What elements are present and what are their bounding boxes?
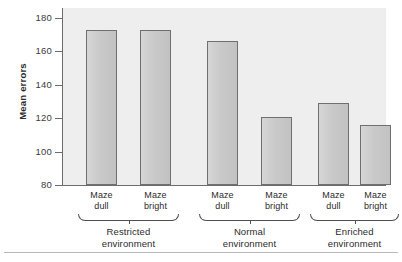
bar — [207, 41, 238, 185]
y-tick-label: 160 — [12, 45, 52, 56]
y-tick-label: 120 — [12, 112, 52, 123]
y-tick-label: 80 — [12, 179, 52, 190]
y-tick-mark — [55, 18, 63, 19]
bottom-divider — [4, 252, 398, 253]
bar-label-line1: Maze — [322, 190, 344, 200]
bar-label-line1: Maze — [90, 190, 112, 200]
x-axis-line — [62, 185, 386, 186]
bar-tick-label: Mazebright — [251, 190, 302, 212]
y-tick-mark — [55, 118, 63, 119]
bar-label-line1: Maze — [265, 190, 287, 200]
group-label-line2: environment — [290, 238, 402, 250]
bar-label-line2: bright — [130, 201, 181, 212]
y-axis-line — [62, 8, 63, 186]
bar — [261, 117, 292, 185]
group-label-line1: Enriched — [335, 226, 373, 237]
group-label-line2: environment — [58, 238, 199, 250]
bar-label-line1: Maze — [144, 190, 166, 200]
group-bracket — [78, 214, 179, 221]
bar-label-line2: bright — [251, 201, 302, 212]
y-tick-mark — [55, 152, 63, 153]
y-tick-mark — [55, 185, 63, 186]
bar — [318, 103, 349, 185]
bar — [140, 30, 171, 185]
bar-label-line2: dull — [197, 201, 248, 212]
y-tick-mark — [55, 85, 63, 86]
bar — [86, 30, 117, 185]
bar-tick-label: Mazedull — [76, 190, 127, 212]
y-tick-label: 100 — [12, 146, 52, 157]
group-label: Enrichedenvironment — [290, 226, 402, 250]
bar-chart-figure: Mean errors 80100120140160180 MazedullMa… — [0, 0, 402, 262]
group-label-line1: Restricted — [107, 226, 151, 237]
group-label-line1: Normal — [234, 226, 265, 237]
bar-label-line2: bright — [350, 201, 401, 212]
y-tick-mark — [55, 51, 63, 52]
bar-tick-label: Mazedull — [197, 190, 248, 212]
y-tick-label: 180 — [12, 12, 52, 23]
bar-tick-label: Mazebright — [350, 190, 401, 212]
bar-label-line1: Maze — [211, 190, 233, 200]
bar — [360, 125, 391, 185]
bar-label-line2: dull — [76, 201, 127, 212]
y-tick-label: 140 — [12, 79, 52, 90]
bar-label-line1: Maze — [364, 190, 386, 200]
bar-tick-label: Mazebright — [130, 190, 181, 212]
group-label: Restrictedenvironment — [58, 226, 199, 250]
group-bracket — [199, 214, 300, 221]
group-bracket — [310, 214, 399, 221]
